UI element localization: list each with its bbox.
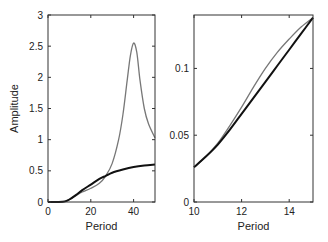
x-tick-label: 20 <box>85 206 97 217</box>
y-tick-label: 1 <box>37 134 43 145</box>
chart-figure: 0204000.511.522.53PeriodAmplitude 101214… <box>0 0 328 242</box>
x-tick-label: 40 <box>128 206 140 217</box>
y-tick-label: 0 <box>37 197 43 208</box>
y-tick-label: 2.5 <box>29 41 43 52</box>
series-line-black <box>194 18 313 168</box>
y-tick-label: 0.1 <box>175 63 189 74</box>
left-panel-amplitude-vs-period: 0204000.511.522.53PeriodAmplitude <box>8 10 155 233</box>
series-line-black <box>48 165 155 202</box>
x-tick-label: 10 <box>188 206 200 217</box>
x-tick-label: 0 <box>45 206 51 217</box>
x-axis-label: Period <box>86 220 118 232</box>
axes-frame <box>48 15 155 202</box>
y-tick-label: 0 <box>183 197 189 208</box>
x-axis-label: Period <box>238 220 270 232</box>
y-axis-label: Amplitude <box>8 84 20 133</box>
y-tick-label: 2 <box>37 72 43 83</box>
x-tick-label: 12 <box>236 206 248 217</box>
y-tick-label: 0.5 <box>29 165 43 176</box>
y-tick-label: 3 <box>37 10 43 21</box>
right-panel-zoomed-period: 10121400.050.1Period <box>170 15 313 232</box>
y-tick-label: 0.05 <box>170 130 190 141</box>
x-tick-label: 14 <box>284 206 296 217</box>
y-tick-label: 1.5 <box>29 103 43 114</box>
